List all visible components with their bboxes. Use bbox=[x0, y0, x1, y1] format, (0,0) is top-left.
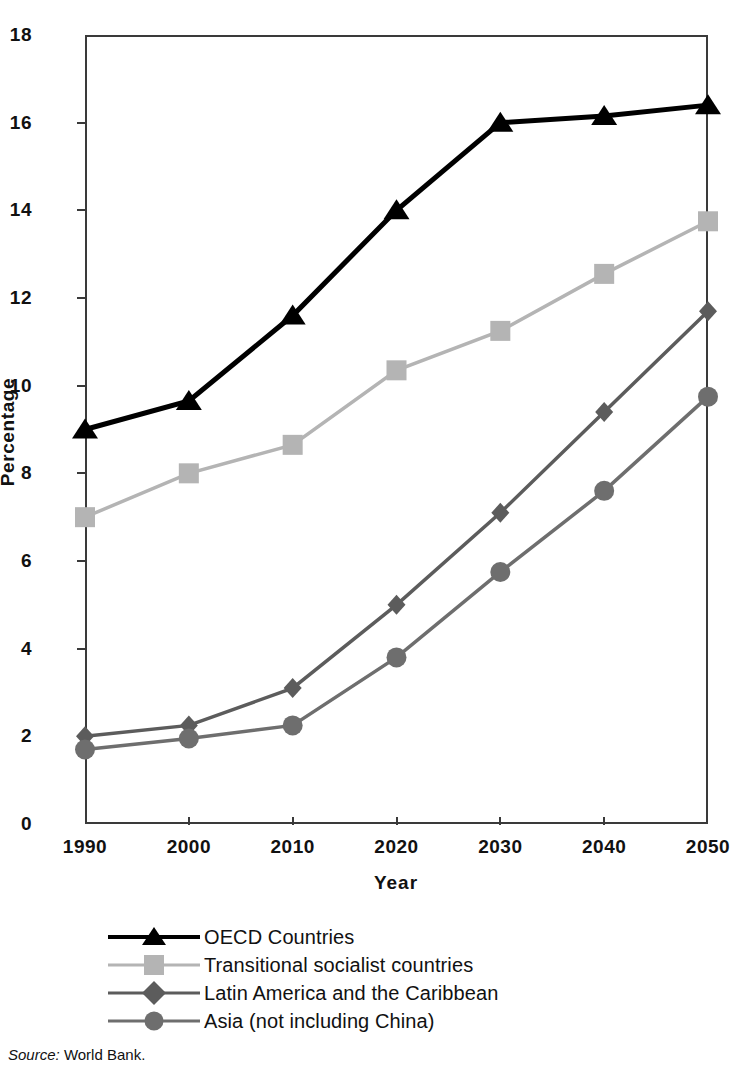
y-tick-mark bbox=[77, 297, 86, 299]
legend-label: OECD Countries bbox=[204, 926, 354, 949]
square-marker-icon bbox=[144, 955, 164, 975]
x-tick-label: 1990 bbox=[63, 836, 107, 858]
x-tick-mark bbox=[292, 817, 294, 825]
y-tick-label: 6 bbox=[0, 550, 32, 572]
y-tick-mark bbox=[77, 122, 86, 124]
legend-label: Transitional socialist countries bbox=[204, 954, 473, 977]
circle-marker-icon bbox=[145, 1012, 164, 1031]
legend-item: Transitional socialist countries bbox=[108, 951, 528, 979]
legend-key-oecd bbox=[108, 924, 200, 950]
y-tick-mark bbox=[77, 735, 86, 737]
y-tick-label: 8 bbox=[0, 462, 32, 484]
y-tick-mark bbox=[77, 560, 86, 562]
y-tick-label: 2 bbox=[0, 725, 32, 747]
figure-container: Percentage Year 024681012141618199020002… bbox=[0, 0, 746, 1077]
source-prefix: Source: bbox=[8, 1046, 60, 1063]
y-tick-label: 0 bbox=[0, 813, 32, 835]
x-tick-label: 2000 bbox=[167, 836, 211, 858]
y-tick-label: 12 bbox=[0, 287, 32, 309]
x-tick-mark bbox=[499, 817, 501, 825]
legend-item: OECD Countries bbox=[108, 923, 528, 951]
x-tick-label: 2050 bbox=[686, 836, 730, 858]
y-tick-label: 4 bbox=[0, 638, 32, 660]
chart-legend: OECD Countries Transitional socialist co… bbox=[108, 923, 528, 1035]
x-tick-mark bbox=[396, 817, 398, 825]
x-tick-label: 2030 bbox=[478, 836, 522, 858]
legend-key-asia bbox=[108, 1008, 200, 1034]
y-tick-mark bbox=[77, 385, 86, 387]
x-tick-mark bbox=[603, 817, 605, 825]
x-tick-mark bbox=[188, 817, 190, 825]
legend-key-transitional bbox=[108, 952, 200, 978]
triangle-marker-icon bbox=[142, 927, 166, 945]
legend-label: Latin America and the Caribbean bbox=[204, 982, 498, 1005]
x-tick-label: 2020 bbox=[374, 836, 418, 858]
legend-label: Asia (not including China) bbox=[204, 1010, 435, 1033]
legend-item: Latin America and the Caribbean bbox=[108, 979, 528, 1007]
source-text: World Bank. bbox=[64, 1046, 145, 1063]
y-tick-label: 14 bbox=[0, 199, 32, 221]
y-tick-label: 18 bbox=[0, 24, 32, 46]
x-axis-label: Year bbox=[374, 872, 418, 894]
y-tick-label: 10 bbox=[0, 375, 32, 397]
y-tick-label: 16 bbox=[0, 112, 32, 134]
y-tick-mark bbox=[77, 209, 86, 211]
y-tick-mark bbox=[77, 472, 86, 474]
legend-key-latin-america bbox=[108, 980, 200, 1006]
diamond-marker-icon bbox=[142, 981, 166, 1005]
plot-area bbox=[85, 35, 708, 824]
y-tick-mark bbox=[77, 648, 86, 650]
legend-item: Asia (not including China) bbox=[108, 1007, 528, 1035]
source-note: Source: World Bank. bbox=[8, 1046, 145, 1063]
x-tick-label: 2010 bbox=[271, 836, 315, 858]
x-tick-label: 2040 bbox=[582, 836, 626, 858]
